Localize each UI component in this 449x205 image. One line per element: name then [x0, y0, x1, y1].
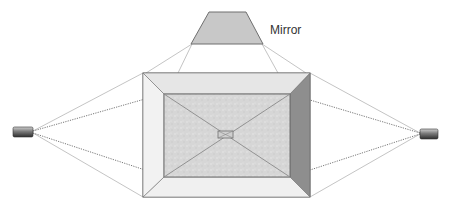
camera-mirror-box-diagram: Mirror	[0, 0, 449, 205]
mirror-label: Mirror	[270, 23, 301, 37]
mirror-rays	[146, 44, 306, 73]
box	[143, 73, 310, 197]
left-camera-rays	[33, 73, 145, 197]
right-camera-rays	[310, 73, 420, 197]
box-right-side	[290, 73, 310, 197]
mirror-shape	[191, 12, 263, 44]
camera-right-icon	[420, 129, 438, 139]
camera-left-icon	[13, 127, 33, 137]
